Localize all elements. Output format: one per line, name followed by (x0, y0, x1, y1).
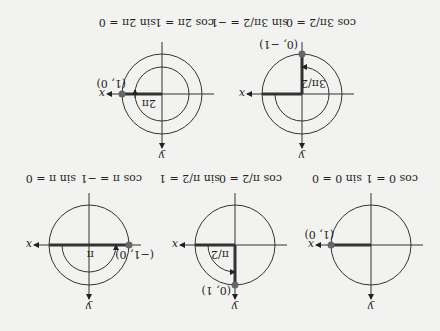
caption-cos: cos 3π/2 = 0 (286, 16, 356, 29)
panel-angle-0: x y (1, 0) cos 0 = 1 sin 0 = 0 (304, 172, 423, 313)
point-label: (0, 1) (201, 284, 231, 297)
point-label: (−1, 0) (115, 248, 154, 261)
y-axis-label: y (367, 300, 375, 313)
point-marker (119, 91, 126, 98)
point-marker (232, 282, 239, 289)
angle-label: 2π (142, 97, 156, 110)
point-marker (328, 242, 335, 249)
point-label: (1, 0) (304, 228, 334, 241)
angle-label: π (87, 248, 94, 261)
panel-angle-2pi: x y (1, 0) 2π cos 2π = 1 sin 2π = 0 (96, 16, 214, 162)
caption-sin: sin π = 0 (26, 172, 76, 185)
y-axis-label: y (85, 300, 93, 313)
caption-sin: sin π/2 = 1 (159, 172, 220, 185)
y-axis-label: y (298, 149, 306, 162)
caption-cos: cos π/2 = 0 (219, 172, 282, 185)
panel-angle-pi: x y (−1, 0) π cos π = −1 sin π = 0 (25, 172, 154, 313)
unit-circle-diagrams: x y (1, 0) cos 0 = 1 sin 0 = 0 x y (0, 1… (0, 0, 440, 331)
caption-cos: cos 0 = 1 (366, 172, 418, 185)
point-marker (299, 51, 306, 58)
caption-cos: cos 2π = 1 (155, 16, 214, 29)
angle-label: 3π/2 (301, 77, 326, 90)
x-axis-label: x (25, 238, 32, 251)
x-axis-label: x (238, 87, 245, 100)
panel-angle-3pi-over-2: x y (0, −1) 3π/2 cos 3π/2 = 0 sin 3π/2 =… (211, 16, 356, 162)
unit-circle-figure: x y (1, 0) cos 0 = 1 sin 0 = 0 x y (0, 1… (0, 0, 440, 331)
point-label: (0, −1) (259, 38, 298, 51)
x-axis-label: x (171, 238, 178, 251)
caption-sin: sin 3π/2 = −1 (211, 16, 288, 29)
caption-sin: sin 0 = 0 (312, 172, 362, 185)
y-axis-label: y (231, 300, 239, 313)
caption-sin: sin 2π = 0 (99, 16, 156, 29)
angle-label: π/2 (211, 248, 229, 261)
caption-cos: cos π = −1 (80, 172, 142, 185)
point-label: (1, 0) (96, 77, 126, 90)
panel-angle-pi-over-2: x y (0, 1) π/2 cos π/2 = 0 sin π/2 = 1 (159, 172, 287, 313)
y-axis-label: y (158, 149, 166, 162)
